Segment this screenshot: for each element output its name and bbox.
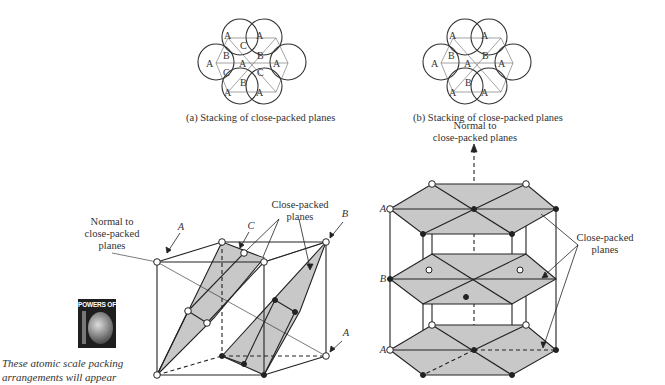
- atom-label: B: [223, 50, 230, 61]
- fcc-cube: [112, 242, 326, 375]
- atom-label: A: [239, 58, 246, 69]
- fcc-layer-c: C: [246, 220, 256, 232]
- atom-label: B: [482, 50, 489, 61]
- atom-label: A: [224, 30, 231, 41]
- label-line: planes: [72, 240, 152, 252]
- hcp-planes-label: Close-packed planes: [570, 232, 640, 256]
- atom-label: B: [257, 50, 264, 61]
- fcc-layer-a-bottom: A: [341, 327, 351, 339]
- hcp-arrows: [471, 144, 578, 348]
- label-line: Normal to: [72, 216, 152, 228]
- label-line: planes: [570, 244, 640, 256]
- caption-a: (a) Stacking of close-packed planes: [186, 112, 335, 123]
- badge-text: POWERS OF: [78, 301, 116, 308]
- hcp-cell: [390, 149, 556, 375]
- hcp-normal-label: Normal to close-packed planes: [425, 120, 525, 144]
- fcc-layer-a-top: A: [176, 221, 186, 233]
- earth-icon: [88, 312, 113, 344]
- label-line: Close-packed: [265, 199, 335, 211]
- label-line: Close-packed: [570, 232, 640, 244]
- atom-label: A: [256, 30, 263, 41]
- label-line: Normal to: [425, 120, 525, 132]
- atom-label: A: [498, 58, 505, 69]
- atom-label: B: [240, 77, 247, 88]
- hcp-layer-b: B: [378, 273, 388, 285]
- badge-digit-one: [82, 311, 86, 344]
- atom-label: A: [449, 30, 456, 41]
- sidebar-note: These atomic scale packing arrangements …: [2, 356, 123, 384]
- atom-label: A: [431, 58, 438, 69]
- fcc-layer-b: B: [340, 208, 350, 220]
- atom-label: A: [256, 87, 263, 98]
- label-line: close-packed planes: [425, 132, 525, 144]
- label-line: close-packed: [72, 228, 152, 240]
- fcc-normal-label: Normal to close-packed planes: [72, 216, 152, 252]
- atom-label: C: [257, 67, 264, 78]
- powers-of-ten-badge: POWERS OF: [78, 299, 116, 348]
- atom-label: A: [464, 58, 471, 69]
- atom-label: A: [481, 87, 488, 98]
- panel-a-letters: A C A B B A A A C C B A A: [200, 30, 310, 100]
- atom-label: B: [465, 77, 472, 88]
- hcp-layer-a-bottom: A: [378, 344, 388, 356]
- fcc-planes-label: Close-packed planes: [265, 199, 335, 223]
- note-line: arrangements will appear: [2, 370, 123, 384]
- label-line: planes: [265, 211, 335, 223]
- hcp-layer-a-top: A: [378, 203, 388, 215]
- atom-label: A: [449, 87, 456, 98]
- atom-label: C: [240, 40, 247, 51]
- atom-label: A: [481, 30, 488, 41]
- atom-label: A: [206, 58, 213, 69]
- atom-label: C: [223, 67, 230, 78]
- atom-label: A: [273, 58, 280, 69]
- atom-label: A: [224, 87, 231, 98]
- panel-b-letters: A A B B A A A B A A: [425, 30, 535, 100]
- note-line: These atomic scale packing: [2, 356, 123, 370]
- atom-label: B: [448, 50, 455, 61]
